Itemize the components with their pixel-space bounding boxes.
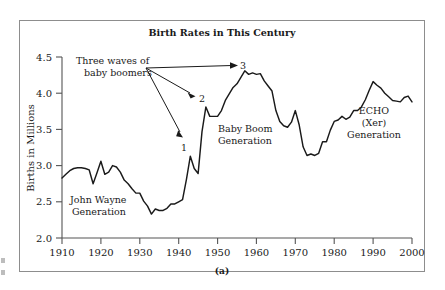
x-tick-label-1920: 1920 bbox=[88, 247, 113, 258]
x-tick-label-1990: 1990 bbox=[360, 247, 385, 258]
echo-label-line1: ECHO bbox=[359, 105, 389, 116]
x-tick-label-1940: 1940 bbox=[166, 247, 191, 258]
wave-2-number: 2 bbox=[199, 93, 205, 104]
x-tick-label-1970: 1970 bbox=[283, 247, 308, 258]
x-tick-label-1950: 1950 bbox=[205, 247, 230, 258]
y-tick-label-4-5: 4.5 bbox=[36, 52, 52, 63]
echo-label-line2: (Xer) bbox=[362, 117, 386, 128]
y-tick-label-2-0: 2.0 bbox=[36, 233, 52, 244]
figure-panel: Birth Rates in This Century 4.5 4.0 3.5 … bbox=[0, 0, 445, 290]
chart-title: Birth Rates in This Century bbox=[149, 27, 296, 38]
wave-1-number: 1 bbox=[181, 142, 187, 153]
x-tick-label-1980: 1980 bbox=[321, 247, 346, 258]
x-tick-label-1930: 1930 bbox=[127, 247, 152, 258]
arrow-head-wave-2 bbox=[188, 93, 196, 99]
arrow-head-wave-3 bbox=[230, 62, 238, 68]
x-axis-ticks: 1910 1920 1930 1940 1950 1960 1970 1980 … bbox=[49, 238, 424, 258]
x-tick-label-1960: 1960 bbox=[244, 247, 269, 258]
y-tick-label-3-5: 3.5 bbox=[36, 124, 52, 135]
three-waves-label-line2: baby boomers bbox=[84, 67, 152, 78]
john-wayne-label-line1: John Wayne bbox=[69, 194, 127, 205]
y-tick-label-3-0: 3.0 bbox=[36, 160, 52, 171]
figure-caption: (a) bbox=[215, 266, 229, 276]
echo-label-line3: Generation bbox=[347, 129, 401, 140]
y-tick-label-2-5: 2.5 bbox=[36, 196, 52, 207]
three-waves-label-line1: Three waves of bbox=[76, 55, 151, 66]
y-tick-label-4-0: 4.0 bbox=[36, 88, 52, 99]
x-tick-label-2000: 2000 bbox=[399, 247, 424, 258]
y-axis-ticks: 4.5 4.0 3.5 3.0 2.5 2.0 bbox=[36, 52, 62, 244]
baby-boom-label-line2: Generation bbox=[218, 135, 272, 146]
john-wayne-label-line2: Generation bbox=[72, 206, 126, 217]
x-tick-label-1910: 1910 bbox=[49, 247, 74, 258]
birth-rates-chart: Birth Rates in This Century 4.5 4.0 3.5 … bbox=[0, 0, 445, 290]
wave-3-number: 3 bbox=[240, 60, 246, 71]
arrow-line-wave-3 bbox=[146, 66, 232, 69]
y-axis-title: Births in Millions bbox=[25, 104, 36, 192]
baby-boom-label-line1: Baby Boom bbox=[218, 123, 273, 134]
